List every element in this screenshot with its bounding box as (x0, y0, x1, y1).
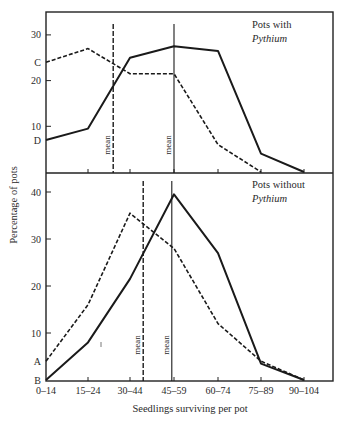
mean-label: mean (161, 335, 171, 355)
y-marker-a: A (34, 356, 42, 367)
x-tick-label: 30–44 (118, 385, 143, 396)
y-tick-label: 30 (31, 234, 41, 245)
data-series (46, 46, 304, 380)
x-tick-label: 0–14 (36, 385, 56, 396)
bottom-panel-title-line1: Pots without (252, 179, 305, 190)
x-tick-label: 60–74 (206, 385, 231, 396)
y-axis-label: Percentage of pots (8, 166, 19, 244)
top-panel-title-line1: Pots with (252, 19, 292, 30)
bottom-solid-series-line (46, 194, 304, 380)
top-y-ticks: 102030 (31, 29, 51, 131)
top-solid-series-line (46, 46, 304, 172)
y-marker-d: D (34, 135, 41, 146)
top-dashed-series-line (46, 49, 261, 172)
top-panel-title-line2: Pythium (251, 33, 287, 44)
mean-label: mean (102, 135, 112, 155)
y-tick-label: 10 (31, 121, 41, 132)
y-tick-label: 20 (31, 281, 41, 292)
x-tick-label: 45–59 (162, 385, 187, 396)
x-tick-label: 15–24 (76, 385, 101, 396)
y-tick-label: 10 (31, 328, 41, 339)
figure: 102030 10203040 0–1415–2430–4445–5960–74… (0, 0, 342, 422)
mean-label: mean (132, 335, 142, 355)
y-marker-c: C (34, 57, 41, 68)
bottom-panel-title-line2: Pythium (251, 193, 287, 204)
y-tick-label: 40 (31, 187, 41, 198)
x-tick-label: 75–89 (249, 385, 274, 396)
y-tick-label: 30 (31, 29, 41, 40)
bottom-y-ticks: 10203040 (31, 187, 51, 339)
x-axis-label: Seedlings surviving per pot (132, 403, 247, 414)
bottom-dashed-series-line (46, 213, 304, 380)
x-tick-label: 90–104 (289, 385, 319, 396)
mean-lines: meanmeanmeanmean (102, 24, 174, 381)
plot-frame (46, 12, 333, 381)
mean-label: mean (163, 135, 173, 155)
y-tick-label: 20 (31, 75, 41, 86)
y-marker-b: B (34, 375, 41, 386)
